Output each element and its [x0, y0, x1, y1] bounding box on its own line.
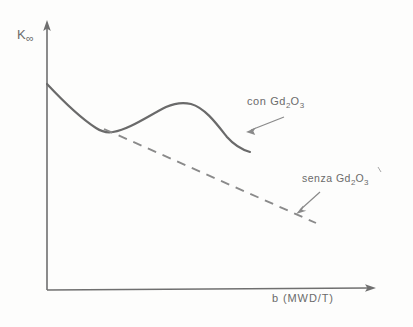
annotation-con-mid: O: [291, 95, 300, 107]
y-axis-label-subscript: ∞: [26, 32, 34, 44]
y-axis-label-symbol: K: [17, 27, 26, 42]
plot-canvas: [0, 0, 413, 327]
annotation-senza-sub2: 3: [364, 178, 368, 187]
baseline-annotation-leader: [300, 192, 320, 210]
x-axis-label: b (MWD/T): [272, 292, 334, 304]
x-axis-line: [47, 288, 368, 290]
annotation-con-gd2o3: con Gd2O3: [247, 95, 304, 107]
figure-container: K∞ b (MWD/T) con Gd2O3 senza Gd2O3: [0, 0, 413, 327]
curve-annotation-arrowhead: [246, 128, 256, 135]
curve-annotation-leader: [251, 117, 284, 130]
annotation-con-sub1: 2: [286, 101, 290, 110]
annotation-con-prefix: con Gd: [247, 95, 286, 107]
annotation-con-sub2: 3: [300, 101, 304, 110]
annotation-senza-gd2o3: senza Gd2O3: [302, 172, 369, 184]
scan-tick-mark: [378, 167, 381, 172]
y-axis-label: K∞: [17, 27, 34, 44]
curve-with-gadolinia: [47, 84, 250, 152]
annotation-senza-sub1: 2: [351, 178, 355, 187]
annotation-senza-mid: O: [355, 172, 364, 184]
baseline-annotation-arrowhead: [296, 206, 306, 214]
line-without-gadolinia: [104, 129, 316, 223]
annotation-senza-prefix: senza Gd: [302, 172, 351, 184]
